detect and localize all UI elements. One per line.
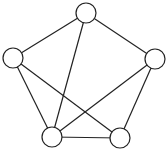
edges-group: [13, 13, 155, 138]
graph-diagram: [0, 0, 168, 151]
edge-left-bottom-left: [13, 58, 52, 137]
node-top: [76, 3, 96, 23]
node-bottom-right: [110, 128, 130, 148]
node-bottom-left: [42, 127, 62, 147]
node-right: [145, 49, 165, 69]
edge-top-bottom-left: [52, 13, 86, 137]
edge-top-right: [86, 13, 155, 59]
node-left: [3, 48, 23, 68]
edge-right-bottom-right: [120, 59, 155, 138]
nodes-group: [3, 3, 165, 148]
